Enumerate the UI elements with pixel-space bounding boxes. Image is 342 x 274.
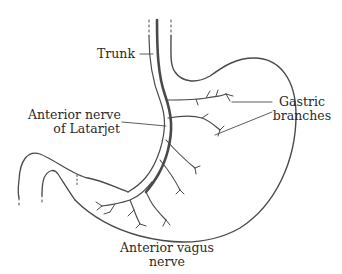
label-anterior-vagus-nerve: Anterior vagus nerve <box>112 241 222 269</box>
stomach-lesser-curve <box>42 171 75 200</box>
gastric-branch-lower-right <box>166 140 195 168</box>
leader-latarjet <box>122 122 166 126</box>
label-anterior-nerve-of-latarjet: Anterior nerve of Latarjet <box>28 108 120 136</box>
anterior-vagus-branches <box>102 182 152 206</box>
stomach-diagram: Trunk Anterior nerve of Latarjet Gastric… <box>0 0 342 274</box>
label-trunk: Trunk <box>97 47 135 61</box>
stomach-illustration <box>0 0 342 274</box>
gastric-branch-middle <box>168 116 220 130</box>
leader-gastric-branches-2 <box>215 112 272 135</box>
stomach-greater-curve-left <box>18 153 128 198</box>
label-gastric-branches: Gastric branches <box>270 95 334 123</box>
esophagus-right-wall <box>75 36 296 242</box>
